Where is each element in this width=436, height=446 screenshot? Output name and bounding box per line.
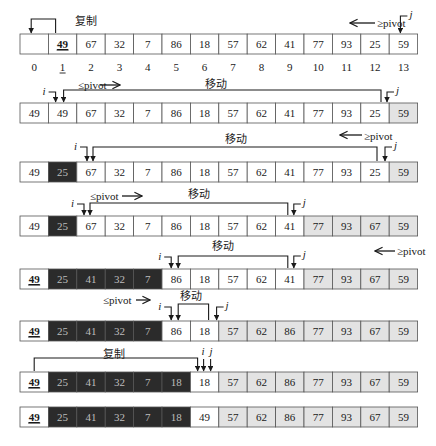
array-cell: 41	[77, 269, 105, 289]
array-cell: 32	[105, 269, 133, 289]
array-cell: 7	[134, 216, 162, 236]
array-cell: 7	[134, 269, 162, 289]
index-label: 7	[230, 61, 236, 73]
cell-value: 57	[228, 166, 240, 178]
cell-value: 7	[145, 38, 151, 50]
i-pointer-4-label: i	[158, 250, 161, 262]
array-cell: 49	[48, 34, 76, 54]
cell-value: 18	[199, 220, 211, 232]
cell-value: 25	[57, 220, 69, 232]
array-cell: 57	[219, 103, 247, 123]
index-label: 0	[31, 61, 37, 73]
j-pointer-1	[387, 92, 394, 102]
array-cell: 62	[247, 321, 275, 341]
array-cell: 32	[105, 162, 133, 182]
array-cell: 41	[276, 216, 304, 236]
array-cell: 41	[77, 407, 105, 427]
diagram-canvas: 4967327861857624177932559494967327861857…	[0, 0, 436, 446]
i-pointer-5	[164, 307, 171, 320]
cell-value: 67	[86, 220, 98, 232]
array-cell: 49	[20, 216, 48, 236]
cell-value: 41	[86, 325, 97, 337]
cell-value: 93	[341, 220, 353, 232]
cell-value: 67	[370, 376, 382, 388]
cell-value: 49	[57, 38, 69, 50]
cell-value: 59	[398, 376, 410, 388]
move-label-2: 移动	[225, 133, 247, 146]
array-cell: 77	[304, 162, 332, 182]
cell-value: 49	[29, 166, 41, 178]
i-pointer-1-label: i	[43, 85, 46, 97]
cell-value: 57	[228, 325, 240, 337]
array-cell: 49	[190, 407, 218, 427]
cell-value: 41	[284, 273, 295, 285]
cell-value: 41	[284, 166, 295, 178]
array-cell: 67	[77, 162, 105, 182]
array-cell: 67	[77, 103, 105, 123]
cell-value: 18	[171, 411, 183, 423]
array-cell: 32	[105, 372, 133, 392]
array-cell: 57	[219, 407, 247, 427]
cell-value: 49	[29, 107, 41, 119]
array-cell: 25	[361, 34, 389, 54]
ge-pivot-label-1: ≥pivot	[377, 17, 406, 29]
cell-value: 62	[256, 220, 267, 232]
array-cell: 25	[48, 269, 76, 289]
i-pointer-2	[80, 147, 87, 161]
cell-value: 59	[398, 107, 410, 119]
cell-value: 41	[86, 411, 97, 423]
array-row-4: 492541327861857624177936759	[20, 269, 418, 289]
copy-label-1: 复制	[75, 14, 97, 28]
cell-value: 25	[57, 325, 69, 337]
cell-value: 7	[145, 107, 151, 119]
ge-pivot-label-2: ≥pivot	[364, 130, 393, 142]
array-cell: 57	[219, 269, 247, 289]
cell-value: 18	[171, 376, 183, 388]
array-cell: 18	[190, 34, 218, 54]
array-cell: 49	[20, 162, 48, 182]
cell-value: 57	[228, 220, 240, 232]
array-cell: 62	[247, 216, 275, 236]
array-cell: 57	[219, 34, 247, 54]
array-cell: 7	[134, 321, 162, 341]
cell-value: 77	[313, 376, 325, 388]
array-cell: 59	[389, 372, 417, 392]
array-cell: 32	[105, 34, 133, 54]
j-pointer-4-label: j	[301, 248, 306, 260]
annotations: 012345678910111213复制≥pivotj≤pivot移动ij移动≥…	[31, 8, 425, 371]
array-cell: 93	[332, 103, 360, 123]
j-pointer-3-label: j	[301, 196, 306, 208]
array-cell: 25	[48, 321, 76, 341]
move-arrow-3	[90, 203, 288, 215]
cell-value: 77	[313, 220, 325, 232]
cell-value: 49	[29, 376, 41, 388]
cell-value: 67	[86, 38, 98, 50]
cell-value: 57	[228, 376, 240, 388]
cell-value: 62	[256, 376, 267, 388]
array-cell: 7	[134, 162, 162, 182]
array-cell: 57	[219, 372, 247, 392]
cell-value: 77	[313, 107, 325, 119]
cell-value: 86	[284, 411, 296, 423]
cell-value: 25	[57, 376, 69, 388]
array-cell: 93	[332, 321, 360, 341]
cell-value: 7	[145, 273, 151, 285]
cell-value: 67	[86, 107, 98, 119]
array-cell: 77	[304, 372, 332, 392]
index-label: 10	[313, 61, 325, 73]
index-label: 13	[398, 61, 410, 73]
array-cell: 93	[332, 269, 360, 289]
cell-value: 77	[313, 411, 325, 423]
array-cell: 32	[105, 407, 133, 427]
copy-arrow-1	[31, 19, 55, 33]
j-pointer-3	[294, 204, 301, 215]
cell-value: 7	[145, 166, 151, 178]
array-cell: 67	[361, 407, 389, 427]
cell-value: 59	[398, 220, 410, 232]
cell-value: 57	[228, 411, 240, 423]
cell-value: 77	[313, 325, 325, 337]
array-cell: 25	[361, 162, 389, 182]
cell-value: 77	[313, 273, 325, 285]
cell-value: 32	[114, 376, 125, 388]
cell-value: 93	[341, 411, 353, 423]
